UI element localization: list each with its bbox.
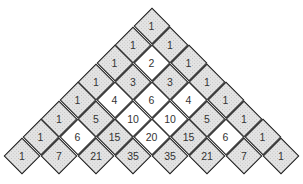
cell-value: 7 [229, 149, 259, 163]
cell-value: 5 [192, 112, 222, 126]
cell-value: 1 [118, 38, 148, 52]
cell-value: 20 [137, 130, 167, 144]
cell-value: 15 [174, 130, 204, 144]
cell-value: 21 [192, 149, 222, 163]
cell-value: 15 [100, 130, 130, 144]
cell-value: 1 [44, 112, 74, 126]
cell-value: 1 [100, 56, 130, 70]
cell-value: 1 [81, 75, 111, 89]
cell-value: 35 [155, 149, 185, 163]
cell-value: 21 [81, 149, 111, 163]
cell-value: 1 [26, 130, 56, 144]
cell-value: 1 [229, 112, 259, 126]
cell-value: 1 [248, 130, 278, 144]
cell-value: 10 [155, 112, 185, 126]
cell-value: 1 [137, 19, 167, 33]
cell-value: 5 [81, 112, 111, 126]
cell-value: 1 [192, 75, 222, 89]
cell-value: 4 [174, 93, 204, 107]
cell-value: 6 [137, 93, 167, 107]
cell-value: 1 [155, 38, 185, 52]
cell-value: 2 [137, 56, 167, 70]
cell-value: 6 [63, 130, 93, 144]
cell-value: 1 [266, 149, 296, 163]
cell-value: 4 [100, 93, 130, 107]
cell-value: 10 [118, 112, 148, 126]
cell-value: 6 [211, 130, 241, 144]
cell-value: 7 [44, 149, 74, 163]
cell-value: 3 [118, 75, 148, 89]
cell-value: 35 [118, 149, 148, 163]
cell-value: 1 [7, 149, 37, 163]
cell-value: 1 [174, 56, 204, 70]
cell-value: 1 [211, 93, 241, 107]
cell-value: 1 [63, 93, 93, 107]
cell-value: 3 [155, 75, 185, 89]
